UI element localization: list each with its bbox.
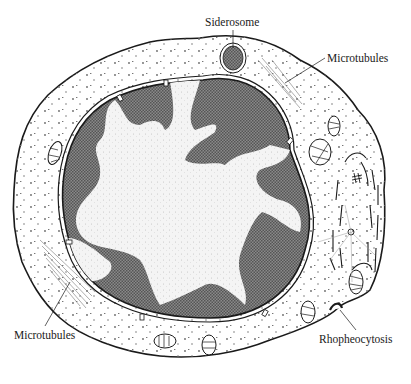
label-siderosome: Siderosome [205, 17, 259, 29]
cell-diagram: Siderosome Microtubules Microtubules Rho… [0, 0, 411, 384]
mitochondrion [328, 116, 340, 136]
mitochondrion [349, 270, 363, 294]
mitochondrion [202, 335, 216, 355]
mitochondrion [154, 334, 176, 348]
label-rhopheocytosis: Rhopheocytosis [319, 334, 392, 346]
mitochondrion [301, 301, 315, 323]
leader-rhopheocytosis [340, 310, 356, 330]
label-microtubules-left: Microtubules [14, 330, 75, 342]
label-microtubules-top: Microtubules [327, 53, 388, 65]
mitochondrion [309, 139, 331, 165]
